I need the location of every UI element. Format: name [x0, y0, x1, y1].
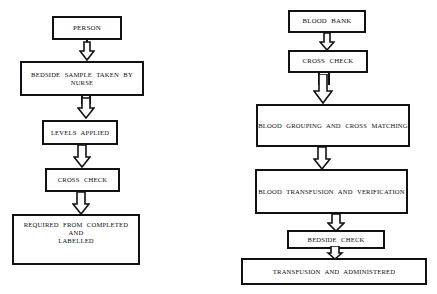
node-required-from: REQUIRED FROM COMPLETED AND LABELLED — [12, 214, 140, 265]
arrow-blood-bank-to-cross-check-icon — [319, 33, 335, 51]
node-bedside-sample: BEDSIDE SAMPLE TAKEN BY NURSE — [20, 61, 144, 96]
node-levels-applied-label: LEVELS APPLIED — [51, 129, 109, 137]
node-blood-grouping-label: BLOOD GROUPING AND CROSS MATCHING — [258, 122, 408, 130]
node-cross-check-left: CROSS CHECK — [45, 168, 120, 192]
node-blood-transfusion: BLOOD TRANSFUSION AND VERIFICATION — [255, 169, 408, 214]
node-transfusion-admin: TRANSFUSION AND ADMINISTERED — [241, 258, 427, 285]
arrow-levels-to-cross-check-icon — [73, 145, 91, 168]
node-bedside-check-label: BEDSIDE CHECK — [308, 236, 365, 244]
node-person-label: PERSON — [73, 24, 101, 32]
node-cross-check-right: CROSS CHECK — [288, 50, 368, 73]
node-transfusion-admin-label: TRANSFUSION AND ADMINISTERED — [273, 268, 395, 276]
node-cross-check-left-label: CROSS CHECK — [58, 176, 108, 184]
arrow-cross-check-to-required-icon — [72, 192, 90, 215]
node-cross-check-right-label: CROSS CHECK — [303, 57, 354, 65]
arrow-person-to-bedside-sample-icon — [79, 41, 95, 61]
arrow-grouping-to-transfusion-icon — [313, 147, 331, 170]
arrow-cross-check-to-grouping-icon — [313, 74, 333, 104]
node-blood-grouping: BLOOD GROUPING AND CROSS MATCHING — [256, 104, 410, 147]
node-blood-bank-label: BLOOD BANK — [303, 17, 352, 25]
flowchart-canvas: PERSON BEDSIDE SAMPLE TAKEN BY NURSE LEV… — [0, 0, 437, 294]
node-required-from-label: REQUIRED FROM COMPLETED AND LABELLED — [24, 216, 128, 244]
arrow-bedside-sample-to-levels-icon — [77, 97, 95, 119]
node-levels-applied: LEVELS APPLIED — [42, 120, 118, 145]
node-person: PERSON — [52, 16, 122, 40]
node-bedside-sample-label: BEDSIDE SAMPLE TAKEN BY NURSE — [31, 71, 133, 87]
node-blood-bank: BLOOD BANK — [288, 10, 366, 33]
node-blood-transfusion-label: BLOOD TRANSFUSION AND VERIFICATION — [258, 188, 405, 196]
